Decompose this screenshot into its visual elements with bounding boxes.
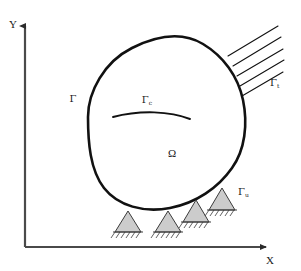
- support-hatching: [179, 222, 208, 228]
- omega-domain-label: Ω: [168, 147, 176, 159]
- gamma-u-symbol: Γ: [238, 186, 245, 197]
- gamma-t-subscript: t: [277, 82, 280, 89]
- support-hatching: [111, 232, 140, 238]
- support-2: [151, 211, 183, 238]
- gamma-t-symbol: Γ: [270, 77, 277, 88]
- support-triangle: [155, 211, 181, 232]
- support-1: [111, 211, 143, 238]
- body-outline-group: [88, 36, 245, 209]
- body-outline-path: [88, 36, 245, 209]
- gamma-t-traction-label: Γt: [270, 77, 280, 89]
- traction-line-3: [237, 49, 283, 76]
- mechanics-diagram: Y X: [0, 0, 301, 271]
- support-hatching: [151, 232, 180, 238]
- y-axis-label: Y: [9, 18, 17, 30]
- figure-container: Y X: [0, 0, 301, 271]
- support-triangle: [209, 188, 235, 210]
- gamma-u-displacement-label: Γu: [238, 186, 249, 198]
- gamma-boundary-symbol: Γ: [70, 93, 77, 104]
- gamma-u-subscript: u: [245, 191, 249, 198]
- gamma-c-symbol: Γ: [142, 94, 149, 105]
- x-axis-label: X: [266, 254, 274, 266]
- traction-line-1: [228, 26, 278, 56]
- gamma-boundary-label: Γ: [70, 93, 77, 104]
- support-triangle: [115, 211, 141, 232]
- traction-line-2: [233, 37, 281, 66]
- support-hatching: [205, 210, 234, 216]
